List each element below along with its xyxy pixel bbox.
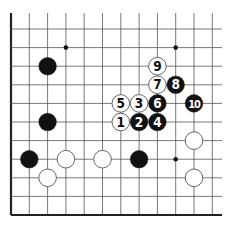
move-number: 1 [117, 114, 125, 130]
star-point-icon [173, 157, 178, 162]
black-stone [39, 113, 57, 131]
move-number: 4 [153, 114, 161, 130]
numbered-black-stone: 10 [185, 95, 203, 113]
numbered-white-stone: 5 [112, 95, 130, 113]
go-board[interactable]: 12345678910 [0, 0, 230, 225]
black-stone-icon [39, 113, 57, 131]
numbered-black-stone: 2 [130, 113, 148, 131]
black-stone [21, 150, 39, 168]
black-stone-icon [39, 57, 57, 75]
numbered-white-stone: 3 [130, 95, 148, 113]
move-number: 5 [117, 95, 125, 111]
move-number: 2 [135, 114, 143, 130]
black-stone [39, 57, 57, 75]
black-stone-icon [21, 150, 39, 168]
white-stone [185, 169, 203, 187]
star-point-icon [173, 45, 178, 50]
move-number: 6 [153, 95, 161, 111]
white-stone-icon [57, 150, 75, 168]
white-stone-icon [185, 169, 203, 187]
white-stone [94, 150, 112, 168]
numbered-white-stone: 9 [149, 57, 167, 75]
move-number: 10 [188, 98, 201, 111]
white-stone-icon [94, 150, 112, 168]
white-stone-icon [185, 132, 203, 150]
move-number: 9 [153, 58, 161, 74]
star-point-icon [64, 45, 69, 50]
move-number: 7 [153, 76, 161, 92]
white-stone [39, 169, 57, 187]
move-number: 8 [171, 76, 179, 92]
black-stone-icon [130, 150, 148, 168]
white-stone [185, 132, 203, 150]
white-stone-icon [39, 169, 57, 187]
move-number: 3 [135, 95, 143, 111]
white-stone [57, 150, 75, 168]
numbered-white-stone: 1 [112, 113, 130, 131]
numbered-black-stone: 6 [149, 95, 167, 113]
numbered-black-stone: 8 [167, 76, 185, 94]
black-stone [130, 150, 148, 168]
numbered-black-stone: 4 [149, 113, 167, 131]
numbered-white-stone: 7 [149, 76, 167, 94]
